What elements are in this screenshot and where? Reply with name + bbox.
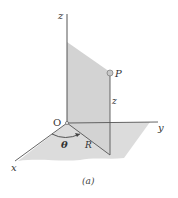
x-axis-label: x: [11, 162, 17, 173]
cylindrical-coordinates-diagram: z P z O y θ R x (a): [0, 0, 178, 198]
theta-label: θ: [61, 139, 68, 150]
z-axis-label: z: [57, 10, 64, 21]
origin-dot: [66, 122, 69, 125]
point-p-label: P: [114, 68, 122, 79]
height-z-label: z: [111, 96, 117, 106]
y-axis-label: y: [157, 122, 164, 133]
point-p-marker: [107, 70, 113, 76]
origin-label: O: [53, 117, 61, 128]
figure-caption: (a): [82, 176, 95, 186]
radius-label: R: [84, 140, 92, 150]
